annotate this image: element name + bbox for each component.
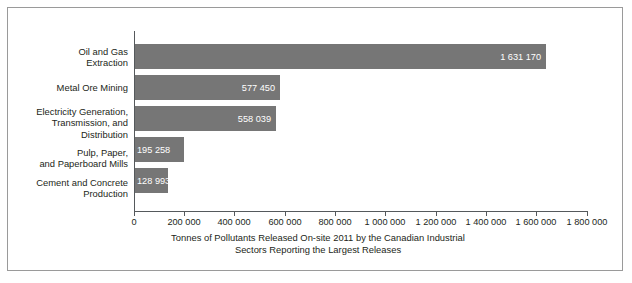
- bar-electricity-generation[interactable]: 558 039: [135, 106, 276, 131]
- x-axis-tick-label-400000: 400 000: [217, 217, 250, 228]
- bar-oil-and-gas-extraction[interactable]: 1 631 170: [135, 44, 546, 69]
- x-axis-tick-label-800000: 800 000: [318, 217, 351, 228]
- category-label-pulp-paper-paperboard-mills: Pulp, Paper, and Paperboard Mills: [0, 147, 134, 170]
- x-axis-tick-0: [134, 211, 135, 216]
- bar-cement-and-concrete-production[interactable]: 128 993: [135, 168, 168, 193]
- x-axis-tick-label-1000000: 1 000 000: [365, 217, 406, 228]
- category-label-metal-ore-mining: Metal Ore Mining: [0, 82, 134, 93]
- x-axis-tick-800000: [335, 211, 336, 216]
- x-axis-tick-label-1200000: 1 200 000: [416, 217, 457, 228]
- bar-value-cement-and-concrete-production: 128 993: [137, 175, 170, 186]
- x-axis-line: [134, 211, 587, 212]
- x-axis-tick-label-1400000: 1 400 000: [466, 217, 507, 228]
- bar-chart-plot-area: Oil and Gas Extraction Metal Ore Mining …: [8, 8, 624, 272]
- x-axis-tick-600000: [285, 211, 286, 216]
- x-axis-tick-400000: [234, 211, 235, 216]
- x-axis-tick-1800000: [587, 211, 588, 216]
- category-label-cement-and-concrete-production: Cement and Concrete Production: [0, 177, 134, 200]
- x-axis-tick-label-1800000: 1 800 000: [567, 217, 608, 228]
- x-axis-tick-label-0: 0: [131, 217, 136, 228]
- x-axis-title: Tonnes of Pollutants Released On-site 20…: [68, 232, 568, 256]
- y-axis-line: [134, 31, 135, 211]
- bar-pulp-paper-paperboard-mills[interactable]: 195 258: [135, 137, 184, 162]
- x-axis-tick-1600000: [536, 211, 537, 216]
- x-axis-tick-1000000: [385, 211, 386, 216]
- category-label-oil-and-gas-extraction: Oil and Gas Extraction: [0, 46, 134, 69]
- bar-value-metal-ore-mining: 577 450: [242, 82, 275, 93]
- x-axis-tick-1400000: [486, 211, 487, 216]
- x-axis-tick-label-1600000: 1 600 000: [516, 217, 557, 228]
- bar-value-electricity-generation: 558 039: [238, 113, 271, 124]
- x-axis-tick-label-600000: 600 000: [268, 217, 301, 228]
- chart-frame: Oil and Gas Extraction Metal Ore Mining …: [7, 7, 623, 271]
- x-axis-tick-1200000: [436, 211, 437, 216]
- x-axis-tick-200000: [184, 211, 185, 216]
- category-label-electricity-generation: Electricity Generation, Transmission, an…: [0, 106, 134, 140]
- bar-value-oil-and-gas-extraction: 1 631 170: [500, 51, 541, 62]
- bar-value-pulp-paper-paperboard-mills: 195 258: [137, 144, 170, 155]
- x-axis-tick-label-200000: 200 000: [167, 217, 200, 228]
- bar-metal-ore-mining[interactable]: 577 450: [135, 75, 280, 100]
